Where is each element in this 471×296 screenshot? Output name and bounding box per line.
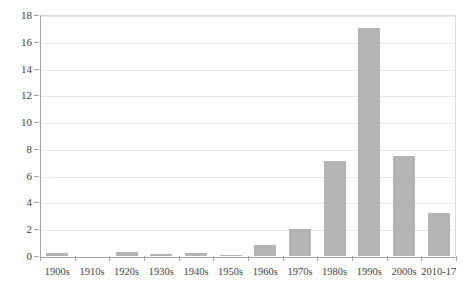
bar-slot	[144, 15, 179, 256]
y-tick-label: 8	[27, 143, 33, 154]
y-tick-label: 18	[21, 10, 32, 21]
x-tick-label: 1940s	[183, 266, 208, 279]
bar-slot	[317, 15, 352, 256]
bar[interactable]	[358, 28, 380, 256]
y-tick-mark	[34, 15, 39, 16]
bar-slot	[352, 15, 387, 256]
x-axis: 1900s1910s1920s1930s1940s1950s1960s1970s…	[40, 266, 456, 286]
x-tick-mark	[421, 256, 422, 261]
x-tick-mark	[75, 256, 76, 261]
y-tick-mark	[34, 202, 39, 203]
x-tick-label: 1910s	[79, 266, 104, 279]
x-tick-label: 1950s	[218, 266, 243, 279]
bar[interactable]	[393, 156, 415, 256]
bar[interactable]	[254, 245, 276, 256]
x-tick-mark	[387, 256, 388, 261]
x-tick-mark	[179, 256, 180, 261]
x-axis-ticks	[40, 256, 456, 262]
y-tick-label: 0	[27, 251, 33, 262]
x-tick-mark	[144, 256, 145, 261]
y-axis: 024681012141618	[0, 0, 40, 296]
y-tick-label: 16	[21, 36, 32, 47]
y-tick-label: 4	[27, 197, 33, 208]
y-tick-mark	[34, 256, 39, 257]
y-tick-mark	[34, 149, 39, 150]
x-tick-label: 2000s	[391, 266, 416, 279]
bars-layer	[40, 15, 456, 256]
x-tick-label: 1900s	[45, 266, 70, 279]
x-tick-mark	[456, 256, 457, 261]
bar-slot	[40, 15, 75, 256]
y-tick-mark	[34, 122, 39, 123]
x-tick-label: 1920s	[114, 266, 139, 279]
y-tick-label: 6	[27, 170, 33, 181]
y-tick-mark	[34, 69, 39, 70]
x-tick-mark	[352, 256, 353, 261]
bar-slot	[421, 15, 456, 256]
x-tick-mark	[40, 256, 41, 261]
x-tick-mark	[248, 256, 249, 261]
y-tick-mark	[34, 95, 39, 96]
x-tick-label: 1980s	[322, 266, 347, 279]
x-tick-label: 1990s	[357, 266, 382, 279]
bar-slot	[248, 15, 283, 256]
bar[interactable]	[289, 229, 311, 256]
bar-slot	[283, 15, 318, 256]
y-tick-label: 14	[21, 63, 32, 74]
bar-slot	[75, 15, 110, 256]
x-tick-label: 2010-17	[421, 266, 456, 279]
bar-slot	[213, 15, 248, 256]
y-tick-label: 10	[21, 117, 32, 128]
x-tick-label: 1930s	[149, 266, 174, 279]
bar-slot	[179, 15, 214, 256]
bar-slot	[109, 15, 144, 256]
bar-chart: 024681012141618 1900s1910s1920s1930s1940…	[0, 0, 471, 296]
y-tick-label: 2	[27, 224, 33, 235]
bar-slot	[387, 15, 422, 256]
x-tick-label: 1960s	[253, 266, 278, 279]
bar[interactable]	[428, 213, 450, 256]
x-tick-mark	[283, 256, 284, 261]
y-tick-label: 12	[21, 90, 32, 101]
x-tick-label: 1970s	[287, 266, 312, 279]
y-tick-mark	[34, 176, 39, 177]
x-tick-mark	[109, 256, 110, 261]
y-tick-mark	[34, 229, 39, 230]
x-tick-mark	[317, 256, 318, 261]
y-tick-mark	[34, 42, 39, 43]
bar[interactable]	[324, 161, 346, 256]
x-tick-mark	[213, 256, 214, 261]
